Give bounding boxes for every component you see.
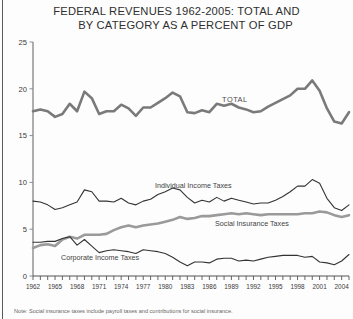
x-tick-label: 1995 (268, 283, 283, 290)
y-tick-label: 25 (19, 38, 27, 47)
chart-title-line-1: FEDERAL REVENUES 1962-2005: TOTAL AND (53, 5, 300, 17)
series-lines (33, 80, 349, 265)
series-line-total (33, 80, 349, 123)
footnote: Note: Social insurance taxes include pay… (14, 308, 349, 319)
series-annotations: TOTALIndividual Income TaxesSocial Insur… (61, 95, 289, 262)
x-tick-label: 1974 (114, 283, 129, 290)
x-tick-label: 1983 (180, 283, 195, 290)
annotation-total: TOTAL (222, 95, 248, 104)
x-tick-label: 1977 (136, 283, 151, 290)
x-tick-label: 1962 (26, 283, 41, 290)
y-tick-label: 5 (23, 225, 27, 234)
x-tick-label: 1971 (92, 283, 107, 290)
x-tick-label: 1998 (290, 283, 305, 290)
x-tick-label: 1989 (224, 283, 239, 290)
annotation-individual-income-taxes: Individual Income Taxes (155, 181, 232, 190)
y-tick-label: 20 (19, 85, 27, 94)
x-tick-label: 1965 (48, 283, 63, 290)
chart-title: FEDERAL REVENUES 1962-2005: TOTAL AND BY… (0, 4, 353, 32)
plot-area: 0510152025 19621965196819711974197719801… (0, 36, 353, 296)
x-tick-label: 2001 (312, 283, 327, 290)
x-tick-label: 1986 (202, 283, 217, 290)
y-tick-label: 10 (19, 178, 27, 187)
chart-title-line-2: BY CATEGORY AS A PERCENT OF GDP (0, 18, 353, 32)
y-axis: 0510152025 (19, 38, 33, 281)
x-axis: 1962196519681971197419771980198319861989… (26, 276, 349, 290)
annotation-corporate-income-taxes: Corporate Income Taxes (61, 253, 140, 262)
line-chart-svg: 0510152025 19621965196819711974197719801… (0, 36, 353, 296)
x-tick-label: 1968 (70, 283, 85, 290)
chart-page: FEDERAL REVENUES 1962-2005: TOTAL AND BY… (0, 0, 353, 319)
x-tick-label: 1980 (158, 283, 173, 290)
x-tick-label: 2004 (335, 283, 350, 290)
y-tick-label: 0 (23, 272, 27, 281)
x-tick-label: 1992 (246, 283, 261, 290)
annotation-social-insurance-taxes: Social Insurance Taxes (215, 219, 289, 228)
y-tick-label: 15 (19, 131, 27, 140)
